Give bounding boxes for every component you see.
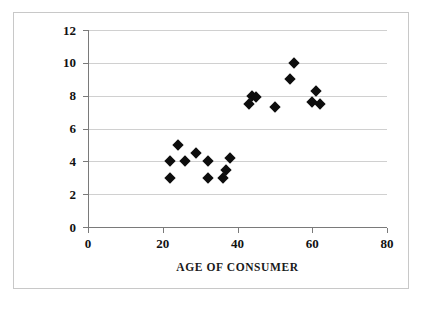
- x-axis-tick-label: 60: [292, 237, 332, 250]
- x-axis-tick-label: 0: [68, 237, 108, 250]
- gridline: [88, 161, 387, 162]
- gridline: [88, 63, 387, 64]
- y-axis-tick-label: 12: [36, 24, 76, 37]
- y-axis-tick-label: 2: [36, 188, 76, 201]
- x-axis-tick: [163, 228, 164, 233]
- y-axis-tick: [83, 96, 88, 97]
- x-axis-tick: [312, 228, 313, 233]
- x-axis-tick: [387, 228, 388, 233]
- y-axis-tick: [83, 63, 88, 64]
- x-axis-title: AGE OF CONSUMER: [88, 261, 387, 273]
- gridline: [88, 96, 387, 97]
- y-axis-tick: [83, 129, 88, 130]
- x-axis-tick-label: 40: [218, 237, 258, 250]
- gridline: [88, 30, 387, 31]
- x-axis-tick: [238, 228, 239, 233]
- y-axis-tick-label: 4: [36, 155, 76, 168]
- scatter-chart: 024681012 020406080 AGE OF CONSUMER PREF…: [14, 13, 410, 290]
- y-axis-tick-label: 6: [36, 122, 76, 135]
- y-axis-tick-label: 0: [36, 221, 76, 234]
- gridline: [88, 194, 387, 195]
- y-axis-tick: [83, 30, 88, 31]
- x-axis-tick-label: 80: [367, 237, 407, 250]
- y-axis-tick: [83, 161, 88, 162]
- gridline: [88, 129, 387, 130]
- y-axis-tick-label: 10: [36, 56, 76, 69]
- x-axis-tick: [88, 228, 89, 233]
- x-axis-tick-label: 20: [143, 237, 183, 250]
- chart-figure-frame: 024681012 020406080 AGE OF CONSUMER PREF…: [13, 12, 409, 289]
- y-axis-tick: [83, 194, 88, 195]
- y-axis-line: [88, 30, 89, 228]
- y-axis-tick-label: 8: [36, 89, 76, 102]
